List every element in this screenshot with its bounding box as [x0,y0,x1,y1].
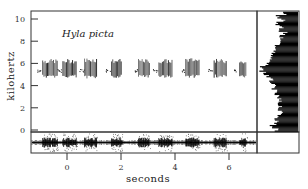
y-tick-label: 8 [20,37,25,46]
x-tick-label: 0 [64,163,69,172]
y-axis-label: kilohertz [5,51,16,100]
x-axis: 0246 [64,153,231,172]
frequency-spectrum [259,12,298,132]
y-tick-label: 10 [15,15,25,24]
x-tick-label: 4 [172,163,177,172]
y-tick-label: 2 [20,104,25,113]
waveform [32,134,256,153]
y-tick-label: 6 [20,59,25,68]
y-axis: 0246810 [15,15,38,135]
x-axis-label: seconds [126,173,170,184]
y-tick-label: 4 [20,82,25,91]
waveform-side-frame [257,132,299,153]
y-tick-label: 0 [20,126,25,135]
x-tick-label: 2 [118,163,123,172]
spectrogram-calls [37,58,246,78]
species-label: Hyla picta [61,28,114,39]
chart-figure: 0246810 0246 Hyla picta seconds kilohert… [0,0,308,189]
x-tick-label: 6 [226,163,231,172]
